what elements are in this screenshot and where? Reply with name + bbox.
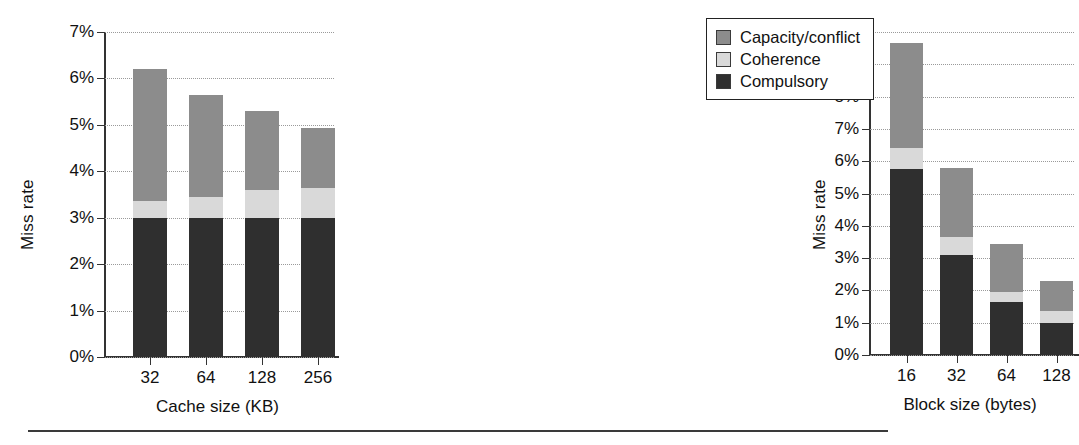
y-tick-label: 4% (69, 161, 94, 181)
bar-segment-compulsory (890, 169, 923, 355)
x-tick (1007, 355, 1008, 363)
y-tick (862, 226, 870, 227)
y-tick (862, 355, 870, 356)
y-tick-label: 0% (834, 345, 859, 365)
legend-item-capacity: Capacity/conflict (716, 26, 860, 48)
gridline (105, 357, 334, 358)
bar-segment-coherence (990, 292, 1023, 302)
x-tick (318, 357, 319, 365)
bar-segment-coherence (245, 190, 279, 218)
horizontal-rule (28, 430, 888, 432)
y-tick-label: 3% (834, 248, 859, 268)
bar-segment-capacity (1040, 281, 1073, 312)
y-tick-label: 1% (834, 312, 859, 332)
y-tick-label: 3% (69, 207, 94, 227)
bar-segment-compulsory (990, 302, 1023, 355)
bar-segment-coherence (940, 237, 973, 255)
y-tick-label: 7% (69, 22, 94, 42)
chart-legend: Capacity/conflictCoherenceCompulsory (706, 18, 874, 100)
y-tick-label: 5% (834, 183, 859, 203)
x-tick-label: 256 (304, 368, 332, 388)
bar-segment-compulsory (189, 218, 223, 357)
y-tick-label: 2% (834, 280, 859, 300)
legend-swatch-icon (716, 52, 731, 67)
y-tick (97, 171, 105, 172)
x-tick-label: 64 (997, 366, 1016, 386)
x-tick (206, 357, 207, 365)
y-tick-label: 5% (69, 114, 94, 134)
bar-segment-compulsory (940, 255, 973, 355)
bar-segment-coherence (189, 197, 223, 218)
bar-segment-compulsory (245, 218, 279, 357)
bar-segment-capacity (133, 69, 167, 201)
y-axis-title-left: Miss rate (18, 120, 38, 250)
bar-segment-capacity (245, 111, 279, 190)
y-tick-label: 2% (69, 254, 94, 274)
bars-left (105, 32, 330, 357)
y-tick (862, 290, 870, 291)
legend-label: Capacity/conflict (740, 28, 860, 47)
bar-segment-capacity (940, 168, 973, 237)
y-tick (97, 78, 105, 79)
y-tick (862, 323, 870, 324)
y-tick (97, 264, 105, 265)
bar-segment-capacity (301, 128, 335, 187)
x-tick (150, 357, 151, 365)
bar-segment-capacity (189, 95, 223, 197)
y-tick (97, 357, 105, 358)
y-tick (97, 32, 105, 33)
legend-label: Coherence (740, 50, 821, 69)
x-axis-title-right: Block size (bytes) (903, 395, 1036, 415)
x-tick (1057, 355, 1058, 363)
x-tick (262, 357, 263, 365)
bars-right (870, 32, 1070, 355)
y-tick (862, 129, 870, 130)
bar-segment-coherence (133, 201, 167, 217)
bar-segment-capacity (990, 244, 1023, 292)
y-tick (862, 161, 870, 162)
bar-segment-coherence (1040, 311, 1073, 322)
x-tick-label: 128 (1042, 366, 1070, 386)
x-tick (957, 355, 958, 363)
legend-swatch-icon (716, 74, 731, 89)
y-tick (97, 311, 105, 312)
bar-segment-coherence (890, 148, 923, 169)
x-tick-label: 64 (197, 368, 216, 388)
x-tick-label: 128 (248, 368, 276, 388)
plot-area-right: 0%1%2%3%4%5%6%7%8%9%10% 163264128 Block … (870, 32, 1070, 355)
y-tick (97, 218, 105, 219)
bar-segment-compulsory (301, 218, 335, 357)
x-tick-label: 16 (897, 366, 916, 386)
legend-item-compulsory: Compulsory (716, 70, 860, 92)
x-axis-title-left: Cache size (KB) (156, 397, 279, 417)
legend-item-coherence: Coherence (716, 48, 860, 70)
bar-segment-compulsory (1040, 323, 1073, 355)
gridline (870, 355, 1074, 356)
plot-area-left: 0%1%2%3%4%5%6%7% 3264128256 Cache size (… (105, 32, 330, 357)
cache-size-chart-panel: Miss rate 0%1%2%3%4%5%6%7% 3264128256 Ca… (0, 0, 420, 445)
y-tick-label: 0% (69, 347, 94, 367)
x-tick-label: 32 (947, 366, 966, 386)
block-size-chart-panel: Miss rate 0%1%2%3%4%5%6%7%8%9%10% 163264… (400, 0, 700, 445)
y-tick-label: 4% (834, 215, 859, 235)
y-tick-label: 6% (69, 68, 94, 88)
y-tick-label: 1% (69, 300, 94, 320)
x-tick (907, 355, 908, 363)
bar-segment-coherence (301, 188, 335, 218)
y-tick (862, 194, 870, 195)
y-tick-label: 6% (834, 151, 859, 171)
y-tick (862, 258, 870, 259)
bar-segment-compulsory (133, 218, 167, 357)
legend-label: Compulsory (740, 72, 828, 91)
legend-swatch-icon (716, 30, 731, 45)
bar-segment-capacity (890, 43, 923, 148)
x-tick-label: 32 (141, 368, 160, 388)
y-axis-title-right: Miss rate (810, 120, 830, 250)
y-tick (97, 125, 105, 126)
y-tick-label: 7% (834, 118, 859, 138)
